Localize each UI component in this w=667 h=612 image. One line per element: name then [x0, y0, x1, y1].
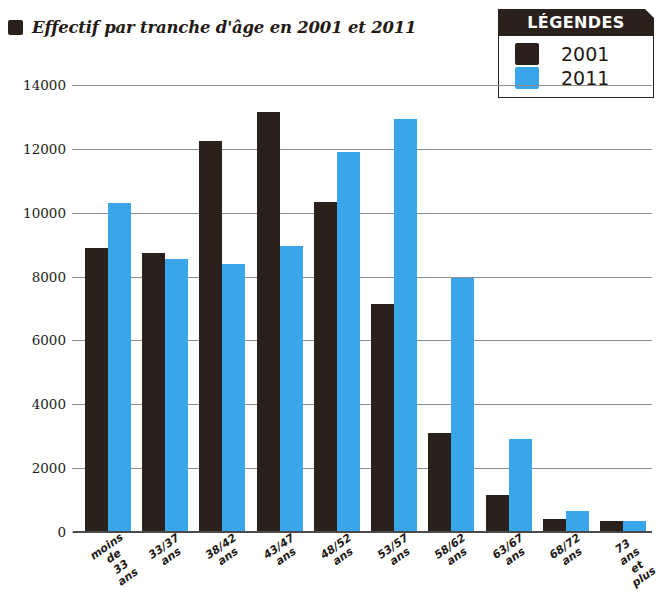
bar-2011 — [108, 203, 131, 532]
y-axis-label: 6000 — [32, 332, 66, 348]
x-axis-label-cell: 43/47 ans — [251, 536, 308, 612]
x-axis-label-cell: 63/67 ans — [480, 536, 537, 612]
x-axis-label: 53/57 ans — [376, 532, 419, 572]
bar-2011 — [222, 264, 245, 532]
x-axis-label: 48/52 ans — [318, 532, 361, 572]
square-bullet-icon — [8, 20, 23, 35]
plot-area: 02000400060008000100001200014000 — [79, 85, 652, 532]
x-axis-label-cell: 48/52 ans — [308, 536, 365, 612]
x-axis-label: 38/42 ans — [204, 532, 247, 572]
bar-2001 — [199, 141, 222, 532]
bar-2001 — [257, 112, 280, 532]
legend-header: LÉGENDES — [499, 10, 653, 36]
chart-title: Effectif par tranche d'âge en 2001 et 20… — [8, 18, 416, 37]
bar-group — [194, 85, 251, 532]
x-axis-line — [73, 531, 652, 534]
bar-group — [308, 85, 365, 532]
y-axis-tick — [72, 149, 79, 150]
y-axis-tick — [72, 277, 79, 278]
x-axis-label: 43/47 ans — [261, 532, 304, 572]
x-axis-label-cell: 73 ans et plus — [595, 536, 652, 612]
y-axis-label: 8000 — [32, 269, 66, 285]
bar-group — [537, 85, 594, 532]
y-axis-label: 2000 — [32, 460, 66, 476]
page-title: Effectif par tranche d'âge en 2001 et 20… — [32, 18, 416, 37]
x-axis-label-cell: moins de 33 ans — [79, 536, 136, 612]
y-axis-label: 0 — [57, 524, 66, 540]
bar-2001 — [428, 433, 451, 532]
legend-label-2001: 2001 — [561, 43, 609, 65]
x-axis-label-cell: 33/37 ans — [136, 536, 193, 612]
x-axis-label: 68/72 ans — [548, 532, 591, 572]
bar-2011 — [280, 246, 303, 532]
bar-group — [423, 85, 480, 532]
x-axis-label: 73 ans et plus — [608, 534, 660, 591]
y-axis-tick — [72, 468, 79, 469]
legend-swatch-2001-icon — [515, 43, 539, 65]
bar-2001 — [314, 202, 337, 532]
bar-2001 — [85, 248, 108, 532]
x-axis-label: 63/67 ans — [490, 532, 533, 572]
x-axis-label: 33/37 ans — [147, 532, 190, 572]
y-axis-label: 12000 — [23, 141, 66, 157]
y-axis-label: 4000 — [32, 396, 66, 412]
x-axis-label: 58/62 ans — [433, 532, 476, 572]
x-axis-label-cell: 68/72 ans — [537, 536, 594, 612]
bar-group — [79, 85, 136, 532]
bar-group — [365, 85, 422, 532]
bar-2011 — [509, 439, 532, 532]
bar-2011 — [394, 119, 417, 532]
x-axis-label-cell: 38/42 ans — [194, 536, 251, 612]
y-axis-tick — [72, 85, 79, 86]
x-axis-label-cell: 53/57 ans — [365, 536, 422, 612]
y-axis-tick — [72, 213, 79, 214]
legend-item-2001: 2001 — [499, 42, 653, 66]
bar-chart-figure: Effectif par tranche d'âge en 2001 et 20… — [0, 0, 667, 612]
bar-2011 — [451, 278, 474, 532]
y-axis-tick — [72, 404, 79, 405]
bar-2011 — [566, 511, 589, 532]
bar-group — [595, 85, 652, 532]
bar-2001 — [142, 253, 165, 532]
bar-group — [251, 85, 308, 532]
y-axis-label: 10000 — [23, 205, 66, 221]
bar-2011 — [337, 152, 360, 532]
bar-2001 — [371, 304, 394, 532]
bar-group — [136, 85, 193, 532]
bar-group — [480, 85, 537, 532]
y-axis-tick — [72, 340, 79, 341]
y-axis-label: 14000 — [23, 77, 66, 93]
bar-2011 — [165, 259, 188, 532]
bar-groups — [79, 85, 652, 532]
x-axis-label-cell: 58/62 ans — [423, 536, 480, 612]
bar-2001 — [486, 495, 509, 532]
x-axis-labels: moins de 33 ans33/37 ans38/42 ans43/47 a… — [79, 536, 652, 612]
